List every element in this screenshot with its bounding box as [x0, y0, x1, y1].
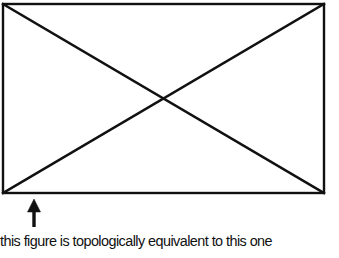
topology-figure	[0, 0, 339, 258]
figure-caption: this figure is topologically equivalent …	[0, 232, 315, 250]
arrow-up-icon	[28, 199, 41, 227]
rectangle-with-diagonals	[3, 4, 324, 193]
